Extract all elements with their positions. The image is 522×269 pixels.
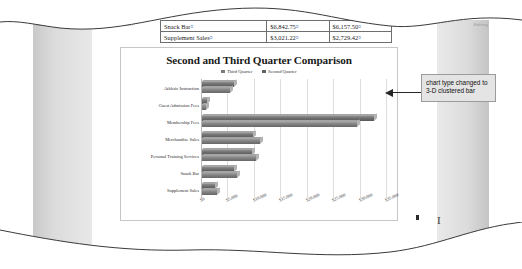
table-cell-text: $2,729.42 <box>333 34 359 41</box>
annotation-callout: chart type changed to 3-D clustered bar <box>421 74 496 102</box>
bar-3d-top-face <box>201 114 377 116</box>
chart-bar[interactable] <box>201 139 260 144</box>
chart-bar[interactable] <box>201 88 230 93</box>
table-row[interactable]: Supplement Sales¤ $3,021.22¤ $2,729.42¤ <box>161 32 392 43</box>
table-cell-q2[interactable]: $3,021.22¤ <box>267 32 329 43</box>
table-cell-label[interactable]: Supplement Sales¤ <box>161 32 267 43</box>
chart-bar[interactable] <box>201 122 357 127</box>
legend-swatch-icon <box>262 70 266 74</box>
table-cell-q3[interactable]: $2,729.42¤ <box>329 32 391 43</box>
cell-mark-icon: ¤ <box>296 35 299 41</box>
chart-bar[interactable] <box>201 190 217 195</box>
chart-value-axis-line <box>201 79 202 198</box>
bar-3d-side-face <box>230 85 233 92</box>
table-cell-text: $6,842.75 <box>270 23 296 30</box>
bar-3d-top-face <box>201 120 360 122</box>
table-cell-text: Supplement Sales <box>164 34 210 41</box>
category-label: Supplement Sales <box>167 187 199 192</box>
bar-3d-side-face <box>374 114 377 121</box>
bar-3d-top-face <box>201 154 258 156</box>
table-cell-q2[interactable]: $6,842.75¤ <box>267 21 329 32</box>
ribbon-label-insert[interactable]: Insert <box>121 22 133 27</box>
category-label: Personal Training Services <box>151 153 199 158</box>
bar-3d-top-face <box>201 131 256 133</box>
chart-object[interactable]: Second and Third Quarter Comparison Thir… <box>120 47 398 221</box>
chart-bar[interactable] <box>201 156 256 161</box>
table-row[interactable]: Snack Bar¤ $6,842.75¤ $6,157.50¤ <box>161 21 392 32</box>
callout-leader-line <box>392 92 422 93</box>
category-label: Guest Admission Fees <box>159 102 199 107</box>
legend-swatch-icon <box>221 70 225 74</box>
table-cell-q3[interactable]: $6,157.50¤ <box>329 21 391 32</box>
table-cell-text: $3,021.22 <box>270 34 296 41</box>
chart-bar[interactable] <box>201 173 237 178</box>
page-curl-right-shadow <box>433 20 489 248</box>
legend-label: Third Quarter <box>227 69 252 74</box>
bar-3d-side-face <box>217 187 220 194</box>
chart-plot-area <box>201 79 386 198</box>
bar-3d-side-face <box>206 102 209 109</box>
table-cell-text: $6,157.50 <box>333 23 359 30</box>
chart-value-axis-labels: $0$5,000$10,000$15,000$20,000$25,000$30,… <box>193 198 393 220</box>
chart-bars-layer[interactable] <box>201 79 386 198</box>
annotation-callout-text: chart type changed to 3-D clustered bar <box>426 79 491 96</box>
bar-3d-top-face <box>201 137 263 139</box>
cell-mark-icon: ¤ <box>190 24 193 30</box>
bar-3d-side-face <box>260 136 263 143</box>
bar-3d-side-face <box>256 153 259 160</box>
legend-item-2[interactable]: Second Quarter <box>262 69 296 74</box>
ribbon-label-editing[interactable]: Editing <box>474 22 488 27</box>
gridline <box>386 79 387 198</box>
category-label: Merchandise Sales <box>165 136 199 141</box>
bar-3d-top-face <box>201 86 232 88</box>
object-anchor-icon <box>416 215 419 220</box>
value-axis-tick-label: $0 <box>199 196 205 202</box>
bar-3d-top-face <box>201 148 254 150</box>
legend-item-1[interactable]: Third Quarter <box>221 69 252 74</box>
table-cell-label[interactable]: Snack Bar¤ <box>161 21 267 32</box>
page-curl-left-shadow <box>33 20 96 248</box>
chart-legend[interactable]: Third QuarterSecond Quarter <box>121 69 397 74</box>
table-cell-text: Snack Bar <box>164 23 190 30</box>
text-cursor-icon: I <box>437 214 441 226</box>
bar-3d-side-face <box>234 80 237 87</box>
bar-3d-top-face <box>201 171 240 173</box>
chart-category-axis-labels: Athletic InstructionGuest Admission Fees… <box>129 79 199 198</box>
cell-mark-icon: ¤ <box>358 35 361 41</box>
bar-3d-top-face <box>201 165 236 167</box>
category-label: Membership Fees <box>167 119 199 124</box>
category-label: Athletic Instruction <box>164 85 199 90</box>
screenshot-root: Home Insert Paragraph Styles Editing Sna… <box>0 0 522 269</box>
bar-3d-side-face <box>237 170 240 177</box>
cell-mark-icon: ¤ <box>358 24 361 30</box>
cell-mark-icon: ¤ <box>296 24 299 30</box>
legend-label: Second Quarter <box>268 69 297 74</box>
category-label: Snack Bar <box>180 170 199 175</box>
bar-3d-top-face <box>201 80 237 82</box>
document-table[interactable]: Snack Bar¤ $6,842.75¤ $6,157.50¤ Supplem… <box>160 20 392 43</box>
ribbon-label-home[interactable]: Home <box>36 22 48 27</box>
chart-title: Second and Third Quarter Comparison <box>121 54 397 66</box>
cell-mark-icon: ¤ <box>210 35 213 41</box>
